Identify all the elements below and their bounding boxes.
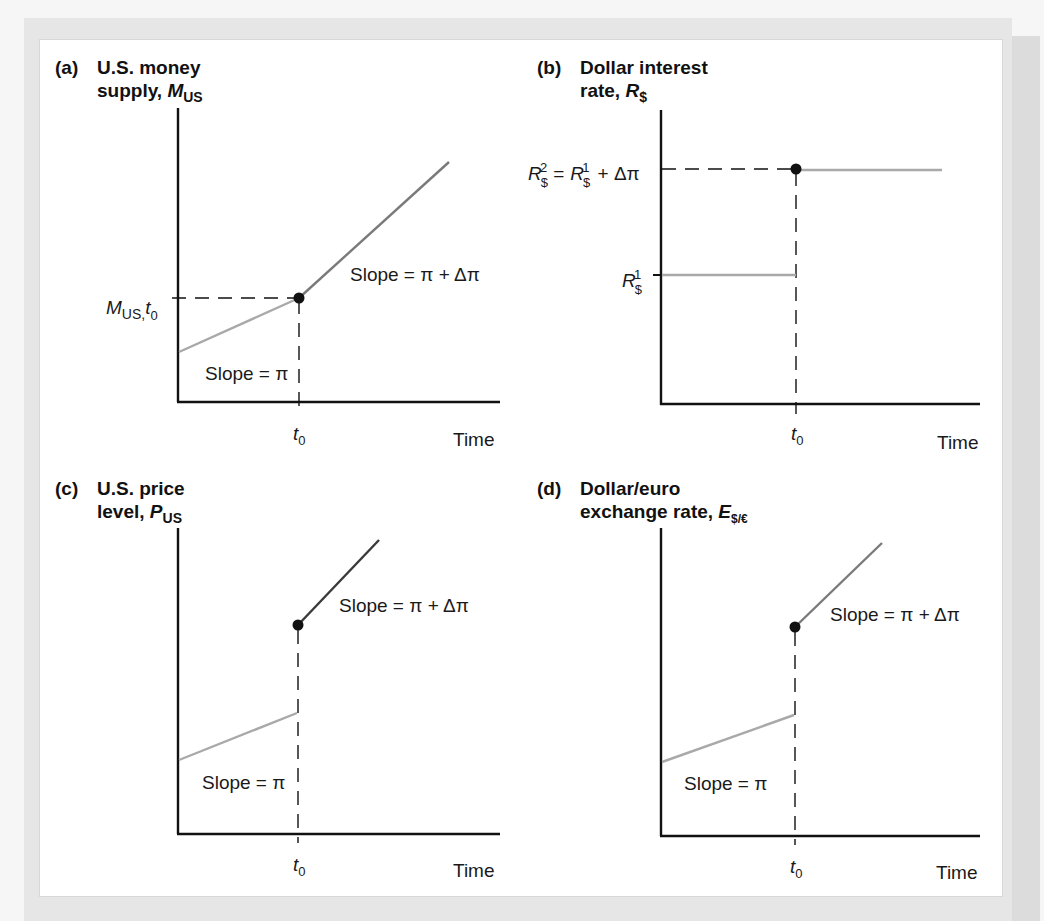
- panel-d-title-line1: Dollar/euro: [580, 478, 680, 499]
- panel-b-title-line1: Dollar interest: [580, 57, 708, 78]
- panel-a-x-tick: t0: [293, 423, 306, 448]
- panel-d-slope-after: Slope = π + Δπ: [830, 604, 960, 625]
- panel-c-x-label: Time: [453, 860, 495, 881]
- panel-d-jump-point: [790, 622, 801, 633]
- panel-a-y-tick: MUS,t0: [106, 297, 158, 323]
- panel-c-title-line2: level, PUS: [97, 501, 182, 526]
- panel-d-x-label: Time: [936, 862, 978, 883]
- panel-c-x-tick: t0: [293, 854, 306, 879]
- panel-a-x-label: Time: [453, 429, 495, 450]
- panel-d: (d) Dollar/euro exchange rate, E$/€ Slop…: [537, 478, 980, 883]
- panel-c-jump-point: [293, 620, 304, 631]
- panel-a-line-before: [179, 298, 299, 352]
- panel-c-title-line1: U.S. price: [97, 478, 185, 499]
- panel-b-r1-label: R$1: [622, 267, 643, 297]
- panel-a: (a) U.S. money supply, MUS Slope = π + Δ…: [55, 57, 500, 450]
- panel-b-x-tick: t0: [791, 423, 804, 448]
- panel-d-title-line2: exchange rate, E$/€: [580, 501, 748, 526]
- panel-c-slope-before: Slope = π: [202, 772, 285, 793]
- panel-b-jump-point: [791, 164, 802, 175]
- panel-a-slope-after: Slope = π + Δπ: [350, 264, 480, 285]
- panel-d-x-tick: t0: [790, 856, 803, 881]
- panel-c-letter: (c): [55, 478, 78, 499]
- figure-svg: (a) U.S. money supply, MUS Slope = π + Δ…: [0, 0, 1044, 921]
- panel-d-slope-before: Slope = π: [684, 773, 767, 794]
- panel-b-title-line2: rate, R$: [580, 80, 647, 105]
- panel-c: (c) U.S. price level, PUS Slope = π + Δπ…: [55, 478, 500, 881]
- panel-a-break-point: [294, 293, 305, 304]
- panel-c-slope-after: Slope = π + Δπ: [339, 595, 469, 616]
- panel-d-line-before: [662, 715, 794, 762]
- panel-b-r2-label: R$2=R$1+ Δπ: [528, 160, 640, 190]
- panel-b-x-label: Time: [937, 432, 979, 453]
- panel-b: (b) Dollar interest rate, R$ R$2=R$1+ Δπ…: [528, 57, 980, 453]
- panel-b-letter: (b): [537, 57, 561, 78]
- panel-a-letter: (a): [55, 57, 78, 78]
- panel-d-letter: (d): [537, 478, 561, 499]
- panel-a-slope-before: Slope = π: [205, 363, 288, 384]
- panel-a-title-line1: U.S. money: [97, 57, 201, 78]
- panel-c-line-before: [179, 713, 297, 760]
- panel-a-title-line2: supply, MUS: [97, 80, 203, 105]
